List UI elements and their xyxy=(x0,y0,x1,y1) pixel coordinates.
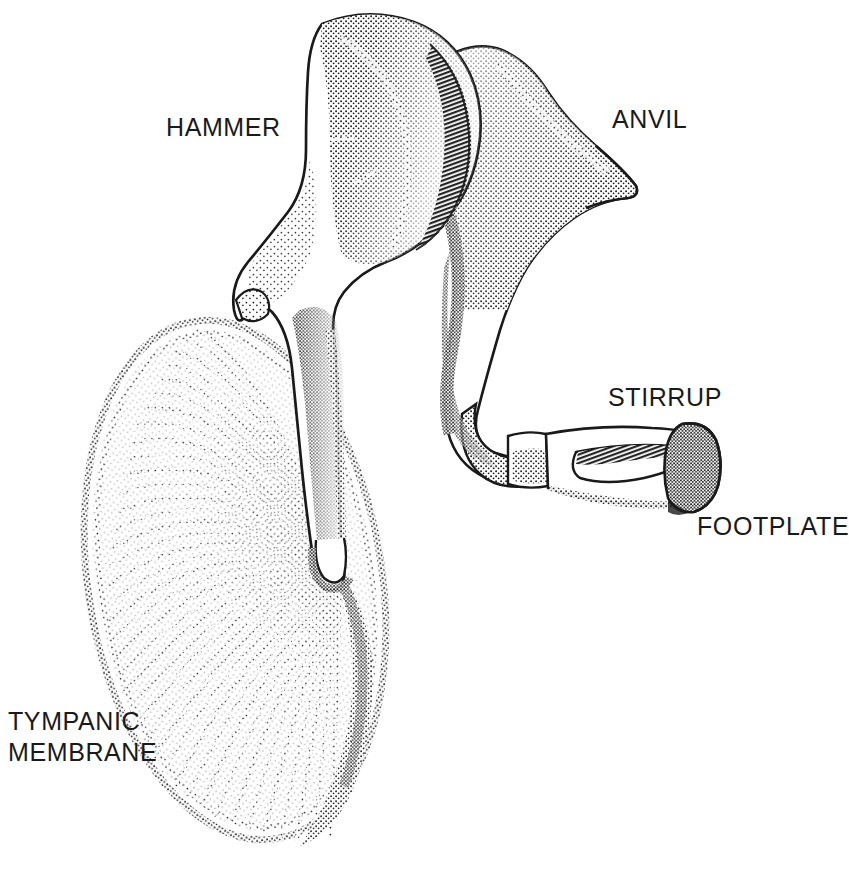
label-anvil: ANVIL xyxy=(612,104,687,135)
label-tympanic-membrane: TYMPANIC MEMBRANE xyxy=(8,706,157,767)
label-hammer: HAMMER xyxy=(166,112,281,143)
stirrup-head-shading xyxy=(512,448,548,483)
hammer-lateral-process xyxy=(236,289,269,321)
label-footplate: FOOTPLATE xyxy=(697,511,849,542)
label-stirrup: STIRRUP xyxy=(608,382,722,413)
